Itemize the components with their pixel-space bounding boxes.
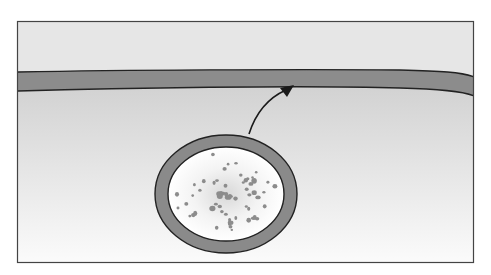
cargo-particle — [218, 205, 222, 209]
cargo-particle — [191, 194, 194, 197]
cargo-particle — [272, 184, 277, 189]
cargo-particle — [231, 229, 234, 231]
cargo-particle — [209, 206, 215, 212]
cargo-particle — [234, 216, 237, 220]
cargo-particle — [227, 163, 230, 166]
cargo-particle — [224, 184, 228, 188]
cargo-particle — [262, 191, 265, 193]
vesicle — [155, 135, 297, 253]
exocytosis-diagram — [0, 0, 491, 275]
cargo-particle — [193, 183, 196, 186]
cargo-particle — [248, 182, 253, 186]
cargo-particle — [247, 193, 251, 196]
cargo-particle — [245, 205, 248, 207]
cargo-particle — [224, 213, 228, 216]
cargo-particle — [177, 206, 180, 209]
cargo-particle — [202, 179, 206, 183]
cargo-particle — [219, 191, 223, 195]
cargo-particle — [175, 192, 179, 197]
cargo-particle — [230, 195, 233, 197]
cargo-particle — [229, 225, 233, 228]
cargo-particle — [188, 215, 191, 218]
cargo-particle — [234, 162, 237, 165]
cargo-particle — [228, 220, 234, 224]
cargo-particle — [252, 190, 257, 195]
cargo-particle — [214, 203, 218, 206]
cargo-particle — [211, 153, 215, 156]
cargo-particle — [263, 204, 267, 208]
cargo-particle — [245, 187, 249, 191]
cargo-particle — [255, 195, 260, 199]
cargo-particle — [239, 173, 243, 176]
cargo-particle — [246, 218, 251, 223]
cargo-particle — [242, 181, 245, 184]
cargo-particle — [184, 202, 188, 206]
cargo-particle — [222, 167, 226, 171]
cargo-particle — [233, 197, 237, 201]
cargo-particle — [191, 213, 196, 217]
cargo-particle — [220, 210, 224, 213]
cargo-particle — [215, 179, 219, 182]
cargo-particle — [266, 181, 269, 184]
cargo-particle — [215, 226, 219, 230]
cargo-particle — [224, 192, 228, 196]
cargo-particle — [255, 171, 258, 174]
diagram-canvas — [0, 0, 491, 275]
cargo-particle — [247, 207, 250, 211]
cargo-particle — [251, 176, 254, 179]
cargo-particle — [251, 216, 256, 219]
cargo-particle — [213, 181, 216, 185]
cargo-particle — [198, 189, 201, 192]
